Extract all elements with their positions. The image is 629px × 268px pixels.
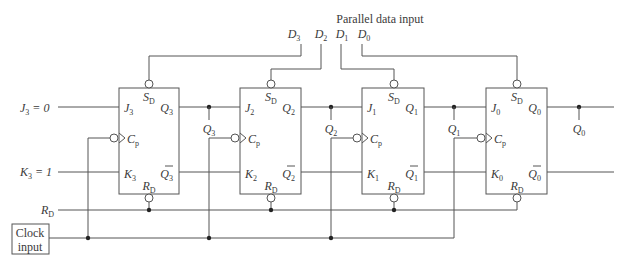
svg-text:Clock: Clock	[16, 226, 45, 240]
reset-bus: RD	[40, 202, 517, 219]
d2-label: D2	[314, 27, 328, 43]
d1-label: D1	[335, 27, 349, 43]
svg-text:Q1: Q1	[448, 122, 461, 138]
svg-text:input: input	[18, 240, 43, 254]
parallel-data-title: Parallel data input	[336, 12, 424, 26]
k3-input-label: K3 = 1	[19, 165, 52, 181]
d1-wire	[341, 44, 394, 81]
svg-text:Q3: Q3	[203, 122, 216, 138]
flip-flop-0: SD J0 Q0 Cp K0 Q0 RD	[477, 80, 547, 202]
d0-wire	[362, 44, 517, 81]
svg-text:RD: RD	[40, 203, 54, 219]
jk-shift-register-diagram: Parallel data input D3 D2 D1 D0 SD J3 Q3…	[0, 0, 629, 268]
flip-flop-2: SD J2 Q2 Cp K2 Q2 RD	[231, 80, 301, 202]
flip-flop-1: SD J1 Q1 Cp K1 Q1 RD	[353, 80, 424, 202]
d3-wire	[149, 44, 301, 81]
data-input-labels: D3 D2 D1 D0	[287, 27, 371, 43]
svg-text:Q0: Q0	[573, 122, 586, 138]
d3-label: D3	[287, 27, 301, 43]
flip-flop-3: SD J3 Q3 Cp K3 Q3 RD	[110, 80, 179, 202]
d0-label: D0	[357, 27, 371, 43]
j3-input-label: J3 = 0	[20, 101, 49, 117]
svg-text:Q2: Q2	[325, 122, 338, 138]
d2-wire	[271, 44, 321, 81]
data-input-wires	[149, 44, 517, 81]
clock-input: Clock input	[12, 224, 49, 254]
